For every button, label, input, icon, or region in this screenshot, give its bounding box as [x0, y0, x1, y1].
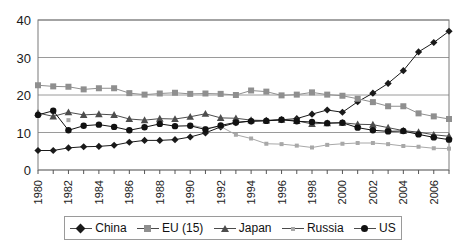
data-point-marker [264, 142, 268, 146]
data-point-marker [370, 127, 376, 133]
data-point-marker [80, 143, 87, 150]
series-us [35, 108, 452, 143]
x-axis-tick-label: 2006 [428, 180, 440, 204]
chart-svg: 0102030401980198219841986198819901992199… [0, 0, 462, 248]
y-axis-tick-label: 10 [17, 126, 31, 141]
x-axis-tick-label: 1988 [154, 180, 166, 204]
data-point-marker [431, 113, 437, 119]
data-point-marker [431, 134, 437, 140]
data-point-marker [340, 142, 344, 146]
legend-marker-triangle-icon [214, 224, 236, 233]
data-point-marker [218, 91, 224, 97]
legend-item-china: China [70, 221, 126, 235]
x-axis-tick-label: 1996 [276, 180, 288, 204]
data-point-marker [141, 124, 147, 130]
data-point-marker [217, 122, 223, 128]
data-point-marker [141, 137, 148, 144]
data-point-marker [187, 123, 193, 129]
data-point-marker [233, 92, 239, 98]
data-point-marker [370, 99, 376, 105]
data-point-marker [385, 103, 391, 109]
data-point-marker [157, 121, 163, 127]
x-axis-tick-label: 1984 [93, 180, 105, 204]
data-point-marker [369, 90, 376, 97]
data-point-marker [324, 92, 330, 98]
data-point-marker [80, 123, 86, 129]
x-axis-tick-label: 2004 [397, 180, 409, 204]
data-point-marker [233, 119, 239, 125]
data-point-marker [35, 112, 41, 118]
data-point-marker [81, 86, 87, 92]
data-point-marker [324, 106, 331, 113]
data-point-marker [50, 108, 56, 114]
x-axis-tick-label: 1994 [245, 180, 257, 204]
legend-label-russia: Russia [307, 221, 344, 235]
data-point-marker [34, 147, 41, 154]
data-point-marker [386, 142, 390, 146]
data-point-marker [172, 90, 178, 96]
data-point-marker [263, 118, 269, 124]
data-point-marker [356, 141, 360, 145]
data-point-marker [263, 89, 269, 95]
legend-item-japan: Japan [214, 221, 272, 235]
data-point-marker [65, 108, 73, 115]
data-point-marker [172, 123, 178, 129]
data-point-marker [447, 147, 451, 151]
data-point-marker [50, 147, 57, 154]
data-point-marker [202, 91, 208, 97]
legend-marker-square-icon [137, 224, 159, 233]
data-point-marker [202, 126, 208, 132]
legend-marker-circle-icon [354, 224, 376, 233]
data-point-marker [249, 137, 253, 141]
y-axis-tick-label: 30 [17, 51, 31, 66]
legend-label-eu: EU (15) [162, 221, 203, 235]
data-point-marker [446, 136, 452, 142]
data-point-marker [294, 92, 300, 98]
legend-marker-diamond-icon [70, 224, 92, 233]
data-point-marker [142, 92, 148, 98]
data-point-marker [339, 120, 345, 126]
data-point-marker [325, 143, 329, 147]
data-point-marker [432, 146, 436, 150]
data-point-marker [309, 119, 315, 125]
data-point-marker [355, 96, 361, 102]
data-point-marker [126, 127, 132, 133]
data-point-marker [187, 91, 193, 97]
data-point-marker [95, 143, 102, 150]
data-point-marker [278, 117, 284, 123]
data-point-marker [157, 91, 163, 97]
legend-marker-small-square-icon [282, 224, 304, 233]
x-axis-tick-label: 1980 [32, 180, 44, 204]
x-axis-tick-label: 1990 [184, 180, 196, 204]
y-axis-tick-label: 0 [24, 163, 31, 178]
chart-container: 0102030401980198219841986198819901992199… [0, 0, 462, 248]
legend-label-japan: Japan [239, 221, 272, 235]
data-point-marker [416, 110, 422, 116]
data-point-marker [324, 120, 330, 126]
data-point-marker [171, 136, 178, 143]
x-axis-tick-label: 1986 [123, 180, 135, 204]
data-point-marker [339, 93, 345, 99]
data-point-marker [295, 144, 299, 148]
legend-label-china: China [95, 221, 126, 235]
data-point-marker [445, 28, 452, 35]
x-axis-tick-label: 1982 [62, 180, 74, 204]
data-point-marker [308, 111, 315, 118]
legend-item-us: US [354, 221, 396, 235]
data-point-marker [126, 139, 133, 146]
data-point-marker [446, 116, 452, 122]
series-line [190, 125, 449, 149]
data-point-marker [156, 137, 163, 144]
data-point-marker [126, 90, 132, 96]
data-point-marker [248, 118, 254, 124]
data-point-marker [96, 85, 102, 91]
data-point-marker [187, 133, 194, 140]
data-point-marker [65, 84, 71, 90]
data-point-marker [248, 88, 254, 94]
x-axis-tick-label: 2002 [367, 180, 379, 204]
series-russia [66, 118, 451, 151]
data-point-marker [111, 124, 117, 130]
data-point-marker [400, 128, 406, 134]
chart-legend: China EU (15) Japan Russia US [64, 216, 402, 240]
data-point-marker [371, 141, 375, 145]
